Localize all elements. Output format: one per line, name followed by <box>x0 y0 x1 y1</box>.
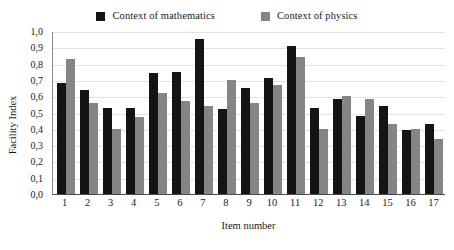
black-square-swatch-icon <box>96 12 105 21</box>
bar-physics-item-13 <box>342 96 351 194</box>
y-axis-tick-label: 1,0 <box>31 27 44 37</box>
bar-math-item-2 <box>80 90 89 194</box>
bar-group <box>77 32 100 194</box>
bar-physics-item-9 <box>250 103 259 194</box>
y-axis-tick-label: 0,7 <box>31 76 44 86</box>
bar-group <box>215 32 238 194</box>
bar-math-item-4 <box>126 108 135 194</box>
bar-math-item-17 <box>425 124 434 194</box>
bar-math-item-16 <box>402 130 411 194</box>
bar-math-item-1 <box>57 83 66 194</box>
y-axis-tick-label: 0,2 <box>31 157 44 167</box>
x-axis-tick-label: 16 <box>399 198 422 209</box>
bar-math-item-14 <box>356 116 365 194</box>
x-axis-tick-label: 10 <box>261 198 284 209</box>
bar-group <box>146 32 169 194</box>
bar-physics-item-17 <box>434 139 443 194</box>
legend-item-context-of-physics: Context of physics <box>261 11 358 22</box>
bar-physics-item-6 <box>181 101 190 194</box>
bar-physics-item-12 <box>319 129 328 194</box>
bar-group <box>330 32 353 194</box>
bar-physics-item-8 <box>227 80 236 194</box>
legend-label-series-2: Context of physics <box>277 11 358 22</box>
bar-group <box>399 32 422 194</box>
bar-math-item-10 <box>264 78 273 194</box>
y-axis-tick-label: 0,1 <box>31 174 44 184</box>
x-axis-tick-labels: 1234567891011121314151617 <box>53 198 445 209</box>
x-axis-tick-label: 9 <box>238 198 261 209</box>
bar-physics-item-11 <box>296 57 305 194</box>
bar-physics-item-15 <box>388 124 397 194</box>
gridline <box>53 195 445 196</box>
bar-physics-item-10 <box>273 85 282 194</box>
x-axis-tick-label: 7 <box>191 198 214 209</box>
bar-group <box>192 32 215 194</box>
bar-physics-item-3 <box>112 129 121 194</box>
bar-math-item-11 <box>287 46 296 194</box>
plot-area <box>52 32 445 195</box>
bar-physics-item-14 <box>365 99 374 194</box>
x-axis-tick-label: 2 <box>76 198 99 209</box>
x-axis-tick-label: 6 <box>168 198 191 209</box>
bar-math-item-5 <box>149 73 158 194</box>
gray-square-swatch-icon <box>261 12 270 21</box>
bar-physics-item-4 <box>135 117 144 194</box>
bars-layer <box>54 32 445 194</box>
bar-math-item-12 <box>310 108 319 194</box>
bar-math-item-7 <box>195 39 204 194</box>
bar-chart-figure: Context of mathematics Context of physic… <box>0 0 454 250</box>
bar-group <box>261 32 284 194</box>
bar-group <box>54 32 77 194</box>
y-axis-tick-label: 0,4 <box>31 125 44 135</box>
x-axis-tick-label: 15 <box>376 198 399 209</box>
y-axis-tick-label: 0,9 <box>31 43 44 53</box>
x-axis-tick-label: 3 <box>99 198 122 209</box>
x-axis-tick-label: 8 <box>214 198 237 209</box>
bar-math-item-9 <box>241 88 250 194</box>
bar-math-item-6 <box>172 72 181 194</box>
bar-group <box>238 32 261 194</box>
bar-group <box>353 32 376 194</box>
x-axis-tick-label: 14 <box>353 198 376 209</box>
bar-group <box>307 32 330 194</box>
bar-group <box>376 32 399 194</box>
y-axis-tick-labels: 1,00,90,80,70,60,50,40,30,20,10,0 <box>0 32 48 195</box>
y-axis-tick-label: 0,0 <box>31 190 44 200</box>
bar-math-item-3 <box>103 108 112 194</box>
bar-physics-item-2 <box>89 103 98 194</box>
bar-physics-item-16 <box>411 129 420 194</box>
x-axis-title: Item number <box>52 221 445 232</box>
x-axis-tick-label: 4 <box>122 198 145 209</box>
legend-label-series-1: Context of mathematics <box>112 11 215 22</box>
y-axis-tick-label: 0,6 <box>31 92 44 102</box>
x-axis-tick-label: 1 <box>53 198 76 209</box>
legend-item-context-of-mathematics: Context of mathematics <box>96 11 215 22</box>
x-axis-tick-label: 12 <box>307 198 330 209</box>
chart-legend: Context of mathematics Context of physic… <box>0 8 454 24</box>
bar-physics-item-5 <box>158 93 167 194</box>
bar-math-item-8 <box>218 109 227 194</box>
x-axis-tick-label: 5 <box>145 198 168 209</box>
bar-math-item-13 <box>333 99 342 194</box>
y-axis-tick-label: 0,5 <box>31 109 44 119</box>
bar-physics-item-7 <box>204 106 213 194</box>
bar-group <box>123 32 146 194</box>
y-axis-tick-label: 0,8 <box>31 60 44 70</box>
bar-group <box>169 32 192 194</box>
x-axis-tick-label: 17 <box>422 198 445 209</box>
x-axis-tick-label: 11 <box>284 198 307 209</box>
x-axis-tick-label: 13 <box>330 198 353 209</box>
y-axis-tick-label: 0,3 <box>31 141 44 151</box>
bar-group <box>284 32 307 194</box>
bar-math-item-15 <box>379 106 388 194</box>
bar-physics-item-1 <box>66 59 75 194</box>
bar-group <box>100 32 123 194</box>
bar-group <box>422 32 445 194</box>
